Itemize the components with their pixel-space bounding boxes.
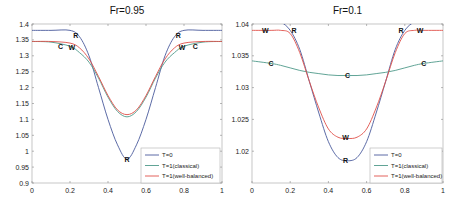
x-tick-label: 1 (441, 187, 445, 194)
curve-label-w: W (262, 27, 269, 34)
x-tick-label: 0.2 (285, 187, 295, 194)
x-tick-label: 1 (220, 187, 224, 194)
chart-title: Fr=0.1 (333, 5, 363, 16)
curve-label-c: C (421, 60, 426, 67)
x-tick-label: 0.4 (103, 187, 113, 194)
y-tick-label: 0.95 (15, 164, 29, 171)
curve-label-w: W (69, 44, 76, 51)
legend: T=0T=1(classical)T=1(well-balanced) (370, 148, 442, 183)
curve-label-r: R (124, 156, 129, 163)
curve-label-c: C (269, 60, 274, 67)
x-tick-label: 0 (250, 187, 254, 194)
x-tick-label: 0.4 (324, 187, 334, 194)
plot-panel-1: Fr=0.9500.20.40.60.810.90.9511.051.11.15… (15, 5, 224, 194)
y-tick-label: 1.1 (19, 116, 29, 123)
legend-label: T=1(well-balanced) (391, 173, 442, 179)
x-tick-label: 0.2 (65, 187, 75, 194)
curve-label-w: W (342, 134, 349, 141)
x-tick-label: 0.6 (141, 187, 151, 194)
curve-label-r: R (343, 157, 348, 164)
y-tick-label: 1.035 (231, 52, 249, 59)
y-tick-label: 1.2 (19, 84, 29, 91)
y-tick-label: 1 (25, 148, 29, 155)
x-tick-label: 0.8 (179, 187, 189, 194)
curve-label-r: R (291, 27, 296, 34)
legend: T=0T=1(classical)T=1(well-balanced) (141, 148, 220, 183)
y-tick-label: 0.9 (19, 180, 29, 187)
legend-label: T=1(classical) (391, 163, 428, 169)
legend-label: T=0 (391, 152, 402, 158)
curve-label-c: C (193, 43, 198, 50)
x-tick-label: 0.6 (362, 187, 372, 194)
plot-panel-2: Fr=0.100.20.40.60.811.021.0251.031.0351.… (231, 5, 445, 194)
x-tick-label: 0 (30, 187, 34, 194)
y-tick-label: 1.05 (15, 132, 29, 139)
y-tick-label: 1.025 (231, 116, 249, 123)
curve-label-r: R (176, 32, 181, 39)
curve-label-w: W (417, 27, 424, 34)
y-tick-label: 1.15 (15, 100, 29, 107)
curve-label-c: C (345, 72, 350, 79)
x-tick-label: 0.8 (400, 187, 410, 194)
legend-label: T=1(well-balanced) (162, 173, 213, 179)
legend-label: T=1(classical) (162, 163, 199, 169)
chart-title: Fr=0.95 (110, 5, 145, 16)
curve-label-r: R (73, 32, 78, 39)
y-tick-label: 1.3 (19, 52, 29, 59)
curve-label-w: W (179, 44, 186, 51)
y-tick-label: 1.03 (235, 84, 249, 91)
y-tick-label: 1.25 (15, 68, 29, 75)
curve-label-c: C (58, 43, 63, 50)
legend-label: T=0 (162, 152, 173, 158)
y-tick-label: 1.04 (235, 21, 249, 28)
y-tick-label: 1.4 (19, 21, 29, 28)
y-tick-label: 1.02 (235, 148, 249, 155)
curve-label-r: R (398, 27, 403, 34)
y-tick-label: 1.35 (15, 36, 29, 43)
chart-canvas: Fr=0.9500.20.40.60.810.90.9511.051.11.15… (0, 0, 455, 201)
